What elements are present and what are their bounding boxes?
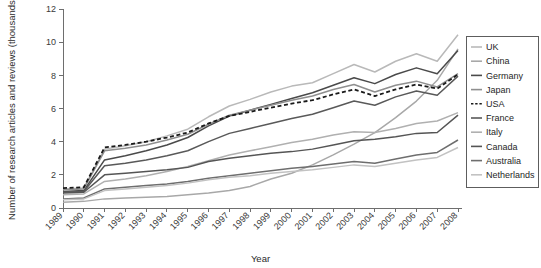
x-tick-label: 1995 <box>168 210 189 231</box>
series-line-germany <box>63 50 458 191</box>
x-tick-label: 1992 <box>106 210 127 231</box>
chart-figure: 0246810121989199019911992199319941995199… <box>0 0 541 268</box>
y-tick-label: 4 <box>51 137 56 147</box>
legend-label-germany: Germany <box>486 71 524 81</box>
legend-label-japan: Japan <box>486 85 511 95</box>
x-tick-label: 2003 <box>334 210 355 231</box>
legend-label-australia: Australia <box>486 156 521 166</box>
legend-label-france: France <box>486 113 514 123</box>
x-tick-label: 2007 <box>417 210 438 231</box>
x-axis-title: Year <box>251 253 270 264</box>
legend-label-china: China <box>486 56 510 66</box>
x-tick-label: 1990 <box>64 210 85 231</box>
series-line-canada <box>63 115 458 193</box>
line-chart: 0246810121989199019911992199319941995199… <box>0 0 541 268</box>
x-tick-label: 1998 <box>230 210 251 231</box>
legend-label-uk: UK <box>486 42 499 52</box>
x-tick-label: 1997 <box>209 210 230 231</box>
x-tick-label: 2008 <box>438 210 459 231</box>
x-tick-label: 1993 <box>126 210 147 231</box>
x-tick-label: 1996 <box>189 210 210 231</box>
series-line-usa <box>63 75 458 189</box>
x-tick-label: 2005 <box>376 210 397 231</box>
legend-label-canada: Canada <box>486 142 518 152</box>
x-tick-label: 2006 <box>397 210 418 231</box>
y-tick-label: 6 <box>51 104 56 114</box>
y-tick-label: 8 <box>51 71 56 81</box>
x-tick-label: 2000 <box>272 210 293 231</box>
series-line-uk <box>63 35 458 189</box>
y-tick-label: 2 <box>51 170 56 180</box>
legend-label-usa: USA <box>486 99 505 109</box>
x-tick-label: 1989 <box>43 210 64 231</box>
x-tick-label: 1994 <box>147 210 168 231</box>
x-tick-label: 1991 <box>85 210 106 231</box>
y-axis-title: Number of research articles and reviews … <box>6 0 17 220</box>
x-tick-label: 2001 <box>293 210 314 231</box>
x-tick-label: 2004 <box>355 210 376 231</box>
y-tick-label: 10 <box>46 37 56 47</box>
x-tick-label: 2002 <box>313 210 334 231</box>
legend-label-netherlands: Netherlands <box>486 170 535 180</box>
y-tick-label: 12 <box>46 4 56 14</box>
legend-label-italy: Italy <box>486 127 503 137</box>
x-tick-label: 1999 <box>251 210 272 231</box>
